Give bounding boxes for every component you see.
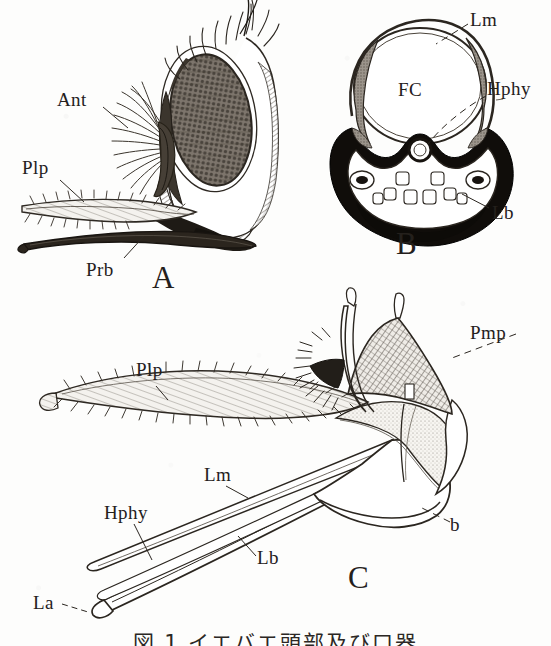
label-ant: Ant <box>57 90 87 109</box>
label-pmp: Pmp <box>470 323 506 342</box>
label-plp-a: Plp <box>22 158 49 177</box>
label-lb-c: Lb <box>257 548 279 567</box>
label-hphy-b: Hphy <box>487 79 531 98</box>
figure-caption: 図 1 イエバエ頭部及び口器 <box>0 630 551 646</box>
antenna-arista <box>112 82 163 194</box>
label-lm-b: Lm <box>470 10 497 29</box>
panel-letter-b: B <box>396 228 418 259</box>
label-fc: FC <box>398 80 422 99</box>
label-plp-c: Plp <box>136 360 163 379</box>
label-prb: Prb <box>86 260 114 279</box>
panel-c-artwork <box>40 288 516 618</box>
panel-letter-c: C <box>348 562 370 593</box>
label-hphy-c: Hphy <box>104 503 148 522</box>
panel-b-artwork <box>330 20 513 246</box>
figure-plate: Ant Plp Prb A Lm FC Hphy Lb B Plp Pmp Lm… <box>0 0 551 646</box>
label-la: La <box>33 593 54 612</box>
label-lb-b: Lb <box>492 203 514 222</box>
figure-caption-strip: 図 1 イエバエ頭部及び口器 <box>0 630 551 646</box>
panel-a-artwork <box>18 0 279 258</box>
label-b-sclerite: b <box>450 515 460 534</box>
label-lm-c: Lm <box>204 465 231 484</box>
panel-letter-a: A <box>152 262 175 293</box>
